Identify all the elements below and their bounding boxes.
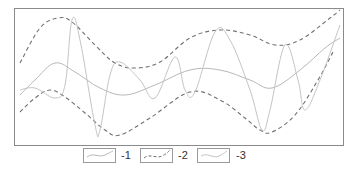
legend-swatch-2 (141, 149, 173, 163)
legend-label-3: -3 (236, 149, 246, 161)
legend-item-3: -3 (198, 149, 246, 163)
legend: -1 -2 -3 (84, 149, 246, 163)
legend-label-2: -2 (178, 149, 188, 161)
legend-item-1: -1 (84, 149, 131, 163)
line-chart: -1 -2 -3 (0, 0, 357, 174)
legend-item-2: -2 (141, 149, 188, 163)
plot-frame (15, 9, 344, 146)
legend-label-1: -1 (121, 149, 131, 161)
